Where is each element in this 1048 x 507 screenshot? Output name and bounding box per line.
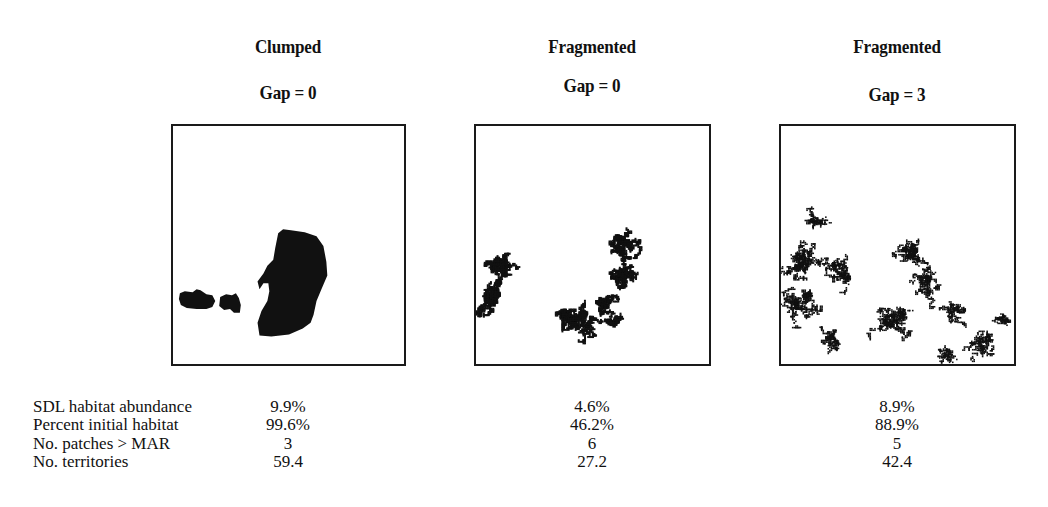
habitat-patch — [179, 289, 215, 309]
habitat-cluster — [937, 345, 957, 363]
table-cell: 4.6% — [532, 397, 652, 416]
habitat-cluster — [781, 287, 823, 329]
habitat-cluster — [939, 301, 967, 328]
table-cell: 5 — [837, 434, 957, 453]
habitat-cluster — [892, 239, 928, 267]
habitat-patches-graphic — [476, 126, 709, 364]
table-cell: 8.9% — [837, 397, 957, 416]
habitat-cluster — [609, 264, 639, 290]
panel-3-title: Fragmented — [789, 36, 1005, 58]
habitat-patches-graphic — [173, 126, 404, 364]
row-label: SDL habitat abundance — [33, 397, 192, 416]
habitat-cluster — [992, 313, 1011, 326]
row-label: No. territories — [33, 452, 128, 471]
habitat-cluster — [595, 294, 620, 317]
habitat-cluster — [962, 331, 994, 363]
table-cell: 59.4 — [228, 452, 348, 471]
habitat-cluster — [819, 326, 840, 354]
habitat-cluster — [909, 265, 941, 309]
panel-2-title: Fragmented — [484, 36, 700, 58]
panel-1-subtitle: Gap = 0 — [180, 82, 396, 104]
row-label: No. patches > MAR — [33, 434, 170, 453]
table-cell: 6 — [532, 434, 652, 453]
panel-2-subtitle: Gap = 0 — [484, 75, 700, 97]
habitat-cluster — [804, 206, 831, 229]
habitat-cluster — [604, 313, 624, 328]
table-cell: 27.2 — [532, 452, 652, 471]
habitat-patch — [258, 229, 328, 336]
panel-3-subtitle: Gap = 3 — [789, 84, 1005, 106]
table-cell: 9.9% — [228, 397, 348, 416]
table-cell: 42.4 — [837, 452, 957, 471]
clumped-habitat-map — [171, 124, 406, 366]
habitat-cluster — [781, 240, 829, 280]
fragmented-gap0-habitat-map — [474, 124, 711, 366]
habitat-patch — [219, 293, 241, 313]
habitat-cluster — [476, 278, 503, 318]
table-cell: 46.2% — [532, 415, 652, 434]
habitat-cluster — [609, 227, 643, 270]
row-label: Percent initial habitat — [33, 415, 178, 434]
habitat-patches-graphic — [781, 126, 1014, 364]
habitat-cluster — [555, 300, 604, 345]
table-cell: 88.9% — [837, 415, 957, 434]
panel-1-title: Clumped — [180, 36, 396, 58]
table-cell: 99.6% — [228, 415, 348, 434]
habitat-cluster — [866, 307, 913, 342]
habitat-cluster — [484, 253, 521, 282]
table-cell: 3 — [228, 434, 348, 453]
fragmented-gap3-habitat-map — [779, 124, 1016, 366]
